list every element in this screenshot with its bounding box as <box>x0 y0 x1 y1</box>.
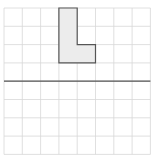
l-shape <box>59 8 96 63</box>
reflection-diagram <box>0 0 153 164</box>
